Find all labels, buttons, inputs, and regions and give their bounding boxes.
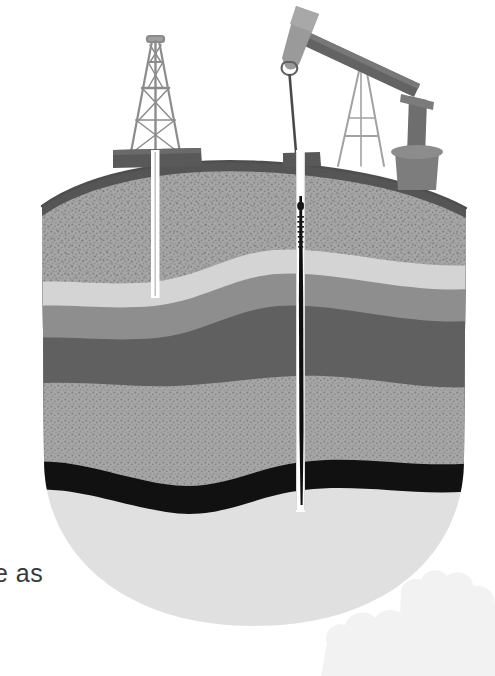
page-text-fragment: e as xyxy=(0,561,43,586)
rod-nodule xyxy=(297,202,304,210)
exploration-well xyxy=(151,150,160,298)
production-well xyxy=(296,150,305,512)
